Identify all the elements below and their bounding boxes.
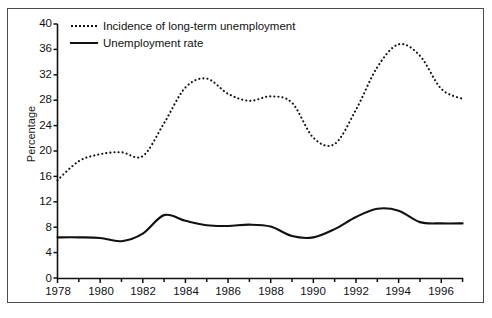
legend-dotted-line-icon [70,21,98,31]
series-line-unemployment-rate [58,208,463,241]
legend-solid-line-icon [70,38,98,48]
series-line-incidence-long-term-unemployment [58,44,463,180]
legend-item-incidence: Incidence of long-term unemployment [70,20,295,32]
legend-item-unemployment-rate: Unemployment rate [70,37,203,49]
legend-label: Unemployment rate [103,37,203,49]
chart-figure: Percentage 40 36 32 28 24 20 16 12 8 4 0… [0,0,492,318]
legend-label: Incidence of long-term unemployment [103,20,295,32]
